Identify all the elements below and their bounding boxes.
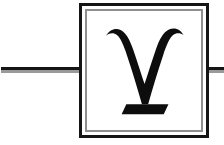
gamma-icon	[92, 19, 196, 123]
wire-light-stroke	[1, 70, 80, 73]
qubit-wire-left[interactable]	[1, 67, 80, 73]
gamma-symbol	[87, 11, 201, 130]
circuit-canvas	[0, 0, 224, 145]
gamma-foot-serif-path	[122, 104, 169, 114]
gamma-gate-box[interactable]	[79, 3, 209, 138]
qubit-wire-right[interactable]	[207, 67, 224, 73]
gamma-glyph-path	[106, 28, 183, 104]
wire-light-stroke	[207, 70, 224, 73]
gate-box-inner-border	[85, 9, 203, 132]
